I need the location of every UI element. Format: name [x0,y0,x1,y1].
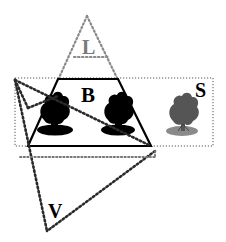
label-b: B [81,83,95,107]
tree-3-icon [166,93,199,136]
label-l: L [82,36,95,58]
label-s: S [195,79,206,101]
v-top-edge [20,151,155,157]
label-v: V [48,200,63,222]
diagram-canvas: L B S V [0,0,226,242]
